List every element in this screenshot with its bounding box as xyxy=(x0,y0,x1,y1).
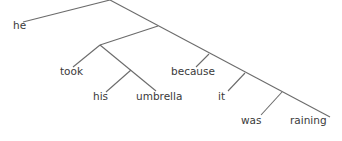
word-it: it xyxy=(218,90,225,102)
tree-edge xyxy=(228,73,245,91)
word-his: his xyxy=(93,90,108,102)
tree-edge xyxy=(100,26,158,45)
word-he: he xyxy=(13,19,26,31)
word-umbrella: umbrella xyxy=(136,90,182,102)
tree-edge xyxy=(73,45,100,67)
tree-edge xyxy=(261,92,282,115)
word-because: because xyxy=(171,65,215,77)
tree-edge xyxy=(100,45,156,91)
word-took: took xyxy=(60,65,83,77)
syntax-tree-diagram: hetookhisumbrellabecauseitwasraining xyxy=(0,0,342,141)
tree-edge xyxy=(23,0,110,22)
word-raining: raining xyxy=(290,114,327,126)
word-was: was xyxy=(241,114,262,126)
tree-edge xyxy=(106,70,131,92)
